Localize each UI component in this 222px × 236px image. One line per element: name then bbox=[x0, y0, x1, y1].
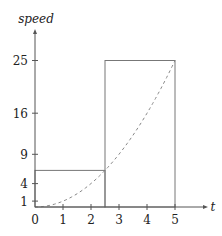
x-axis-label: t bbox=[211, 200, 216, 214]
x-tick-label-5: 5 bbox=[171, 213, 179, 227]
x-tick-label-2: 2 bbox=[87, 213, 95, 227]
y-tick-label-16: 16 bbox=[13, 107, 28, 121]
left-rectangle bbox=[35, 170, 105, 207]
y-tick-label-1: 1 bbox=[20, 195, 28, 209]
x-tick-label-3: 3 bbox=[115, 213, 123, 227]
y-tick-label-9: 9 bbox=[20, 148, 28, 162]
y-axis-label: speed bbox=[18, 12, 54, 26]
y-axis-arrow-icon bbox=[33, 29, 37, 34]
chart-canvas: 1 4 9 16 25 0 1 2 3 4 5 speed t bbox=[0, 0, 222, 236]
y-tick-label-4: 4 bbox=[20, 177, 28, 191]
y-tick-label-25: 25 bbox=[13, 54, 28, 68]
x-tick-label-4: 4 bbox=[143, 213, 151, 227]
x-axis-arrow-icon bbox=[203, 205, 208, 209]
x-tick-label-0: 0 bbox=[31, 213, 39, 227]
x-tick-label-1: 1 bbox=[59, 213, 67, 227]
